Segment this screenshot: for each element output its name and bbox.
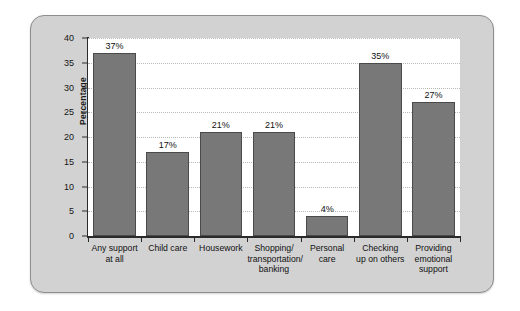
x-category-line: Checking: [354, 243, 407, 254]
bar: [253, 132, 296, 236]
gridline: [88, 112, 460, 113]
x-category-line: emotional: [407, 254, 460, 265]
y-tick-label: 35: [64, 58, 74, 68]
x-tick-mark: [460, 237, 461, 242]
x-category-line: Child care: [141, 243, 194, 254]
x-category-label: Shopping/transportation/banking: [247, 243, 300, 275]
x-category-label: Any supportat all: [88, 243, 141, 264]
gridline: [88, 88, 460, 89]
x-category-label: Personalcare: [301, 243, 354, 264]
bar: [146, 152, 189, 236]
x-category-line: support: [407, 264, 460, 275]
y-tick-label: 25: [64, 107, 74, 117]
x-category-line: Housework: [194, 243, 247, 254]
y-tick-mark: [82, 87, 88, 88]
bar-value-label: 37%: [106, 41, 124, 51]
gridline: [88, 63, 460, 64]
x-tick-mark: [247, 237, 248, 242]
x-category-line: Any support: [88, 243, 141, 254]
y-tick-label: 40: [64, 33, 74, 43]
y-tick-mark: [82, 161, 88, 162]
y-tick-mark: [82, 137, 88, 138]
y-tick-label: 20: [64, 132, 74, 142]
x-tick-mark: [354, 237, 355, 242]
gridline: [88, 38, 460, 39]
x-tick-mark: [194, 237, 195, 242]
y-tick-mark: [82, 62, 88, 63]
x-category-label: Housework: [194, 243, 247, 254]
y-tick-mark: [82, 186, 88, 187]
bar: [93, 53, 136, 236]
y-tick-label: 5: [69, 206, 74, 216]
x-tick-mark: [141, 237, 142, 242]
y-tick-label: 15: [64, 157, 74, 167]
y-tick-mark: [82, 236, 88, 237]
y-tick-label: 0: [69, 231, 74, 241]
y-tick-mark: [82, 38, 88, 39]
bar-value-label: 27%: [424, 90, 442, 100]
x-tick-mark: [301, 237, 302, 242]
x-category-line: Personal: [301, 243, 354, 254]
x-category-label: Checkingup on others: [354, 243, 407, 264]
bar-value-label: 4%: [321, 204, 334, 214]
y-tick-label: 30: [64, 83, 74, 93]
bar: [412, 102, 455, 236]
x-category-line: at all: [88, 254, 141, 265]
chart-figure: Percentage 0510152025303540 37%17%21%21%…: [0, 0, 520, 311]
x-category-line: Providing: [407, 243, 460, 254]
y-tick-mark: [82, 112, 88, 113]
bar-value-label: 35%: [371, 51, 389, 61]
x-category-line: transportation/: [247, 254, 300, 265]
x-category-line: care: [301, 254, 354, 265]
x-axis-line: [87, 236, 461, 238]
bar-value-label: 21%: [212, 120, 230, 130]
bar: [200, 132, 243, 236]
y-axis-ticks: 0510152025303540: [52, 38, 74, 236]
x-tick-mark: [407, 237, 408, 242]
bar-value-label: 21%: [265, 120, 283, 130]
bar: [306, 216, 349, 236]
x-category-line: up on others: [354, 254, 407, 265]
y-tick-label: 10: [64, 182, 74, 192]
x-category-label: Child care: [141, 243, 194, 254]
bar: [359, 63, 402, 236]
y-tick-mark: [82, 211, 88, 212]
x-category-line: Shopping/: [247, 243, 300, 254]
x-tick-mark: [88, 237, 89, 242]
x-category-line: banking: [247, 264, 300, 275]
bar-value-label: 17%: [159, 140, 177, 150]
x-category-label: Providingemotionalsupport: [407, 243, 460, 275]
